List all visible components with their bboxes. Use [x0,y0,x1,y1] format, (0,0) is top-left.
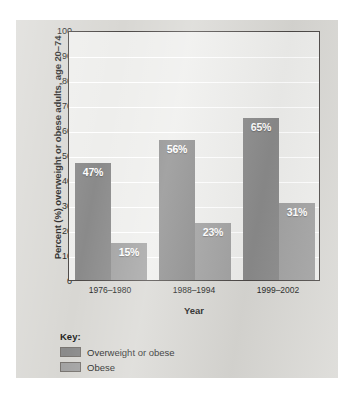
bar-value-label: 23% [195,226,231,238]
bar: 23% [195,223,231,281]
x-axis-tick-label: 1976–1980 [68,285,152,295]
bar: 15% [111,243,147,281]
legend-swatch-icon [60,362,81,372]
legend: Key: Overweight or obeseObese [60,331,175,375]
legend-item: Obese [60,360,175,374]
legend-swatch-icon [60,347,81,357]
bar-value-label: 15% [111,246,147,258]
bars-layer: 47%15%56%23%65%31% [69,32,319,280]
bar-value-label: 31% [279,206,315,218]
legend-item-label: Obese [87,362,115,373]
bar-value-label: 47% [75,166,111,178]
bar: 47% [75,163,111,281]
legend-item-label: Overweight or obese [87,347,175,358]
figure-card: Percent (%) overweight or obese adults, … [16,20,338,378]
bar: 65% [243,118,279,281]
bar-value-label: 56% [159,143,195,155]
bar: 31% [279,203,315,281]
x-axis-title: Year [68,305,320,316]
plot-area: 47%15%56%23%65%31% [68,31,320,281]
bar: 56% [159,140,195,280]
legend-rows: Overweight or obeseObese [60,345,175,374]
legend-title: Key: [60,331,175,342]
x-axis-tick-labels: 1976–19801988–19941999–2002 [68,285,320,299]
legend-item: Overweight or obese [60,345,175,359]
bar-value-label: 65% [243,121,279,133]
x-axis-tick-label: 1999–2002 [236,285,320,295]
x-axis-tick-label: 1988–1994 [152,285,236,295]
